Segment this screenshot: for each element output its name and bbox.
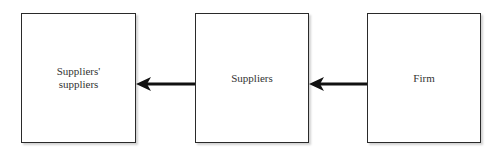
edges-layer [0,0,496,162]
arrow-suppliers-to-suppliers-suppliers-icon [136,77,195,91]
arrow-firm-to-suppliers-icon [309,77,367,91]
